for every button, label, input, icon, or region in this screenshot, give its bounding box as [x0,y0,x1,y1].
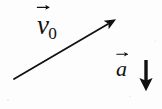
velocity-vector-arrow [14,24,108,79]
velocity-vector-label: v 0 [37,12,58,39]
velocity-subscript: 0 [48,24,57,43]
vectors-canvas [0,0,162,109]
acceleration-symbol-group: a [116,58,127,80]
vector-arrow-accent-icon [36,2,50,11]
acceleration-vector-label: a [116,58,127,80]
acceleration-symbol: a [116,58,127,80]
vector-diagram-figure: v 0 a [0,0,162,109]
vector-arrow-accent-icon [116,49,129,58]
